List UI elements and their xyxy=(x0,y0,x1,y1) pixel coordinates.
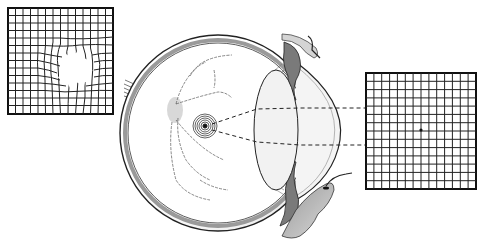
eye-diagram xyxy=(0,0,482,242)
fixation-dot xyxy=(419,128,422,131)
cornea xyxy=(296,62,341,200)
optic-disc xyxy=(167,97,183,123)
distorted-amsler-grid xyxy=(8,8,113,114)
lens xyxy=(254,70,298,190)
normal-amsler-grid xyxy=(366,73,476,189)
